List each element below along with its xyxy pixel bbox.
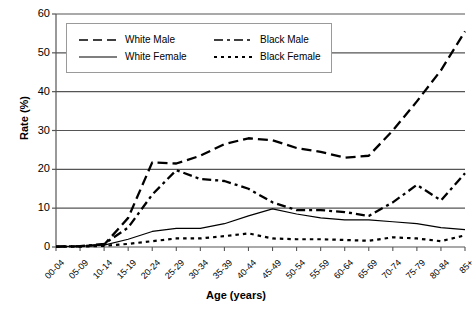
legend-item-black-female: Black Female: [212, 51, 321, 63]
legend-item-white-female: White Female: [77, 51, 212, 63]
series-line-white-female: [56, 209, 465, 247]
line-chart: Rate (%) 0102030405060 00-0405-0910-1415…: [0, 0, 472, 316]
legend-item-black-male: Black Male: [212, 34, 309, 46]
dashed-line-icon: [77, 34, 119, 46]
dash-dot-line-icon: [212, 34, 254, 46]
legend-label: White Female: [119, 51, 187, 62]
chart-legend: White Male Black Male White Female Bl: [66, 23, 332, 73]
legend-label: Black Female: [254, 51, 321, 62]
legend-label: White Male: [119, 34, 175, 45]
legend-item-white-male: White Male: [77, 34, 212, 46]
legend-label: Black Male: [254, 34, 309, 45]
x-axis-title: Age (years): [0, 289, 472, 301]
solid-line-icon: [77, 51, 119, 63]
dotted-line-icon: [212, 51, 254, 63]
